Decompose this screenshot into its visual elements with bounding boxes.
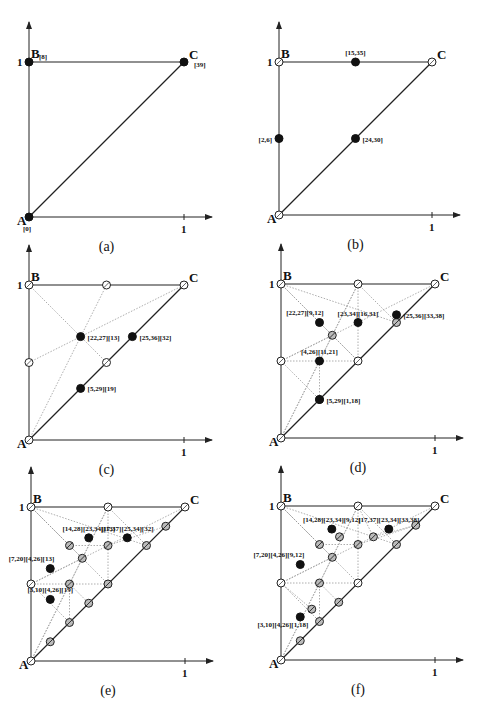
- hatched-node-icon: [104, 542, 112, 550]
- y-tick-label: 1: [269, 278, 275, 290]
- node-label: [7,20][4,26][9,12]: [254, 551, 305, 559]
- hatched-node-icon: [104, 580, 112, 588]
- subdivision-line: [29, 285, 107, 363]
- hatched-node-icon: [354, 541, 362, 549]
- y-tick-label: 1: [269, 500, 275, 512]
- hatched-node-icon: [66, 542, 74, 550]
- panel-e: 11ABC[14,28][23,34][13][17,37][25,34][32…: [9, 467, 213, 699]
- open-node-icon: [104, 503, 112, 511]
- node-label: [23,34][16,31]: [338, 310, 379, 318]
- subdivision-line: [29, 285, 107, 440]
- vertex-a-label: A: [19, 657, 29, 672]
- x-tick-label: 1: [181, 446, 187, 458]
- hatched-node-icon: [369, 533, 377, 541]
- panel-caption: (a): [99, 239, 115, 255]
- filled-node-icon: [352, 135, 360, 143]
- panel-f: 11ABC[14,28][23,34][9,12][17,37][23,34][…: [254, 466, 464, 698]
- open-node-icon: [277, 357, 285, 365]
- filled-node-icon: [316, 319, 324, 327]
- node-label: [25,36][33,38]: [404, 312, 445, 320]
- node-label: [15,35]: [345, 49, 365, 57]
- panel-d: 11ABC[22,27][9,12][23,34][16,31][25,36][…: [269, 244, 463, 476]
- hatched-node-icon: [335, 598, 343, 606]
- subdivision-line: [281, 361, 320, 400]
- hatched-node-icon: [46, 638, 54, 646]
- open-node-icon: [354, 280, 362, 288]
- subdivision-line: [281, 583, 312, 609]
- node-label: [3,10][4,26][1,18]: [258, 621, 309, 629]
- open-node-icon: [103, 281, 111, 289]
- vertex-b-label: B: [281, 46, 290, 61]
- hatched-node-icon: [78, 554, 86, 562]
- filled-node-icon: [393, 311, 401, 319]
- vertex-c-label: C: [190, 492, 199, 507]
- node-label: [2,6]: [259, 136, 272, 144]
- filled-node-icon: [328, 525, 336, 533]
- panel-caption: (c): [99, 462, 115, 478]
- y-tick-label: 1: [267, 56, 273, 68]
- hatched-node-icon: [143, 542, 151, 550]
- filled-node-icon: [46, 565, 54, 573]
- filled-node-icon: [77, 333, 85, 341]
- filled-node-icon: [385, 525, 393, 533]
- hatched-node-icon: [328, 331, 336, 339]
- hatched-node-icon: [328, 553, 336, 561]
- vertex-a-tag: [0]: [23, 225, 31, 233]
- y-tick-label: 1: [17, 56, 23, 68]
- filled-node-icon: [352, 58, 360, 66]
- node-label: [14,28][23,34][9,12]: [303, 516, 361, 524]
- filled-node-icon: [296, 613, 304, 621]
- node-label: [22,27][9,12]: [286, 309, 323, 317]
- hatched-node-icon: [308, 605, 316, 613]
- hatched-node-icon: [393, 541, 401, 549]
- vertex-c-icon: [181, 503, 189, 511]
- panel-caption: (b): [347, 237, 364, 253]
- vertex-c-icon: [180, 58, 188, 66]
- subdivision-line: [281, 506, 320, 545]
- panel-b: 11ABC[15,35][2,6][24,30](b): [259, 22, 460, 253]
- vertex-a-label: A: [269, 656, 279, 671]
- vertex-b-tag: [8]: [39, 53, 47, 61]
- x-tick-label: 1: [432, 666, 438, 678]
- filled-node-icon: [316, 357, 324, 365]
- node-label: [17,37][23,34][33,38]: [358, 516, 419, 524]
- vertex-a-label: A: [267, 211, 277, 226]
- node-label: [7,20][4,26][13]: [9, 555, 55, 563]
- vertex-c-icon: [428, 58, 436, 66]
- hatched-node-icon: [162, 522, 170, 530]
- vertex-c-tag: [39]: [194, 61, 206, 69]
- node-label: [25,36][32]: [139, 334, 171, 342]
- filled-node-icon: [316, 396, 324, 404]
- node-label: [22,27][13]: [88, 334, 120, 342]
- hatched-node-icon: [296, 637, 304, 645]
- subdivision-line: [332, 506, 358, 557]
- vertex-a-label: A: [269, 434, 279, 449]
- panel-a: 11ABC[0][8][39](a): [17, 22, 212, 255]
- hatched-node-icon: [336, 533, 344, 541]
- x-tick-label: 1: [429, 221, 435, 233]
- filled-node-icon: [77, 384, 85, 392]
- filled-node-icon: [128, 333, 136, 341]
- x-tick-label: 1: [432, 444, 438, 456]
- vertex-c-icon: [180, 281, 188, 289]
- subdivision-line: [281, 557, 332, 583]
- vertex-b-label: B: [31, 269, 40, 284]
- subdivision-line: [281, 361, 320, 438]
- node-label: [17,37][25,34][32]: [101, 525, 154, 533]
- hatched-node-icon: [66, 619, 74, 627]
- open-node-icon: [354, 579, 362, 587]
- hatched-node-icon: [85, 599, 93, 607]
- open-node-icon: [103, 359, 111, 367]
- open-node-icon: [354, 502, 362, 510]
- vertex-c-label: C: [189, 270, 198, 285]
- hatched-node-icon: [316, 579, 324, 587]
- edge-ac: [29, 62, 184, 217]
- filled-node-icon: [123, 534, 131, 542]
- filled-node-icon: [296, 561, 304, 569]
- filled-node-icon: [275, 135, 283, 143]
- vertex-c-label: C: [440, 269, 449, 284]
- y-tick-label: 1: [17, 279, 23, 291]
- panel-caption: (e): [100, 683, 116, 699]
- vertex-c-label: C: [440, 491, 449, 506]
- x-tick-label: 1: [182, 667, 188, 679]
